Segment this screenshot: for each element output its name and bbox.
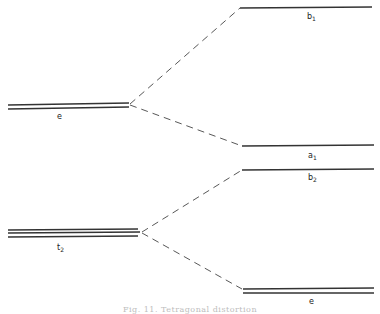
label-b1: b1 (307, 12, 316, 22)
level-e-right (243, 288, 374, 293)
connector-e-to-b1 (130, 8, 240, 104)
figure-caption: Fig. 11. Tetragonal distortion (0, 305, 380, 314)
connector-t2-to-e (142, 233, 242, 289)
level-t2-left (8, 229, 140, 237)
level-b2 (242, 169, 374, 170)
label-b2: b2 (308, 173, 317, 183)
label-a1: a1 (308, 151, 317, 161)
level-b1 (240, 7, 372, 8)
level-a1 (242, 145, 374, 146)
connector-e-to-a1 (130, 105, 242, 146)
label-e-left: e (57, 112, 62, 121)
label-t2: t2 (57, 243, 64, 253)
level-e-left (8, 103, 129, 109)
connector-t2-to-b2 (142, 170, 242, 232)
